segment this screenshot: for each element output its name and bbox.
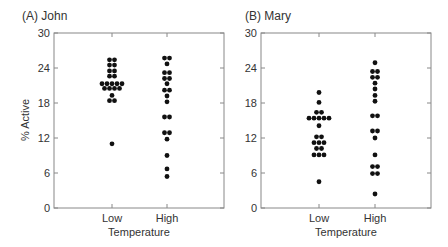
data-dot (162, 115, 167, 120)
data-dot (314, 134, 319, 139)
data-dot (314, 110, 319, 115)
x-tick-high: High (156, 212, 179, 224)
data-dot (373, 87, 378, 92)
data-dot (107, 74, 112, 79)
data-dot (165, 94, 170, 99)
x-axis-label: Temperature (315, 226, 377, 238)
x-axis-label: Temperature (108, 226, 170, 238)
data-dots (100, 56, 172, 179)
data-dot (110, 93, 115, 98)
y-tick-label: 0 (251, 202, 257, 214)
y-tick-label: 12 (38, 132, 50, 144)
data-dot (322, 140, 327, 145)
data-dot (162, 88, 167, 93)
data-dot (107, 86, 112, 91)
data-dot (112, 86, 117, 91)
data-dot (373, 136, 378, 141)
data-dot (373, 93, 378, 98)
data-dot (165, 62, 170, 67)
data-dot (375, 164, 380, 169)
data-dot (373, 153, 378, 158)
data-dot (370, 75, 375, 80)
data-dot (112, 63, 117, 68)
data-dot (107, 57, 112, 62)
data-dot (107, 98, 112, 103)
data-dot (167, 130, 172, 135)
plot-frame (261, 33, 431, 208)
data-dot (312, 116, 317, 121)
y-axis-label: % Active (19, 99, 31, 141)
y-tick-label: 18 (245, 97, 257, 109)
data-dot (319, 146, 324, 151)
data-dot (165, 81, 170, 86)
panel-mary: (B) Mary 0612182430 Low High Temperature (245, 9, 431, 238)
data-dot (167, 88, 172, 93)
data-dot (312, 140, 317, 145)
data-dot (167, 76, 172, 81)
data-dot (162, 76, 167, 81)
data-dot (167, 115, 172, 120)
data-dot (162, 70, 167, 75)
data-dot (319, 134, 324, 139)
y-tick-label: 24 (38, 62, 50, 74)
data-dot (102, 86, 107, 91)
data-dot (165, 99, 170, 104)
data-dot (370, 164, 375, 169)
data-dot (165, 153, 170, 158)
data-dot (312, 153, 317, 158)
data-dot (162, 130, 167, 135)
x-tick-low: Low (309, 212, 329, 224)
panel-john: (A) John 0612182430 Low High Temperature… (19, 9, 224, 238)
data-dot (314, 146, 319, 151)
data-dot (107, 69, 112, 74)
y-tick-label: 30 (245, 27, 257, 39)
panel-title: (A) John (22, 9, 67, 23)
data-dot (112, 69, 117, 74)
panel-title: (B) Mary (245, 9, 291, 23)
y-tick-label: 18 (38, 97, 50, 109)
data-dot (327, 116, 332, 121)
data-dot (322, 116, 327, 121)
data-dot (373, 81, 378, 86)
data-dot (167, 56, 172, 61)
y-tick-label: 12 (245, 132, 257, 144)
data-dot (375, 129, 380, 134)
data-dot (317, 90, 322, 95)
dot-plot-figure: (A) John 0612182430 Low High Temperature… (0, 0, 448, 247)
data-dot (373, 99, 378, 104)
data-dot (317, 116, 322, 121)
y-axis-ticks: 0612182430 (38, 27, 224, 214)
data-dot (165, 137, 170, 142)
data-dot (165, 167, 170, 172)
y-tick-label: 0 (44, 202, 50, 214)
data-dots (307, 60, 380, 196)
data-dot (317, 153, 322, 158)
data-dot (115, 81, 120, 86)
data-dot (370, 69, 375, 74)
y-tick-label: 24 (245, 62, 257, 74)
data-dot (165, 174, 170, 179)
data-dot (375, 75, 380, 80)
data-dot (373, 192, 378, 197)
data-dot (105, 81, 110, 86)
data-dot (120, 81, 125, 86)
data-dot (307, 116, 312, 121)
data-dot (373, 60, 378, 65)
data-dot (117, 86, 122, 91)
data-dot (319, 110, 324, 115)
data-dot (100, 81, 105, 86)
data-dot (167, 70, 172, 75)
data-dot (112, 98, 117, 103)
data-dot (375, 113, 380, 118)
y-axis-ticks: 0612182430 (245, 27, 431, 214)
data-dot (322, 153, 327, 158)
data-dot (370, 171, 375, 176)
data-dot (317, 140, 322, 145)
y-tick-label: 6 (44, 167, 50, 179)
data-dot (110, 141, 115, 146)
data-dot (317, 179, 322, 184)
data-dot (370, 129, 375, 134)
x-tick-high: High (364, 212, 387, 224)
data-dot (110, 81, 115, 86)
data-dot (375, 171, 380, 176)
